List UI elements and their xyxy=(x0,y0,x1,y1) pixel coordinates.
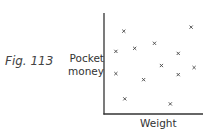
data-point-x-marker xyxy=(133,47,136,50)
data-point-x-marker xyxy=(114,72,117,75)
data-point-x-marker xyxy=(177,73,180,76)
data-point-x-marker xyxy=(192,66,195,69)
data-point-x-marker xyxy=(123,97,126,100)
data-points xyxy=(114,26,195,106)
data-point-x-marker xyxy=(160,64,163,67)
scatter-plot xyxy=(0,0,212,137)
data-point-x-marker xyxy=(169,102,172,105)
data-point-x-marker xyxy=(177,52,180,55)
data-point-x-marker xyxy=(190,26,193,29)
data-point-x-marker xyxy=(114,50,117,53)
data-point-x-marker xyxy=(142,78,145,81)
data-point-x-marker xyxy=(153,42,156,45)
data-point-x-marker xyxy=(122,30,125,33)
